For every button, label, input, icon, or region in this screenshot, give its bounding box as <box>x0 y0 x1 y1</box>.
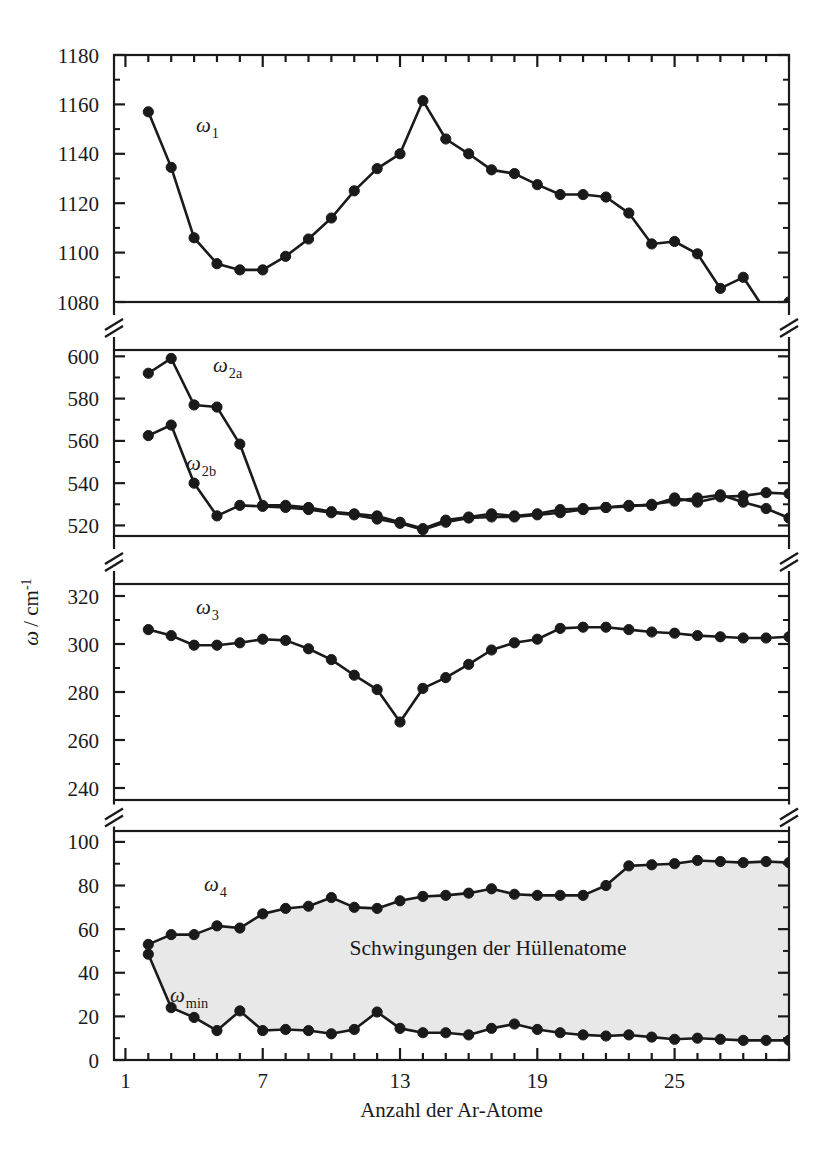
data-point <box>509 168 519 178</box>
data-point <box>395 896 405 906</box>
data-point <box>715 856 725 866</box>
omega-vs-ar-atoms-chart: 1080110011201140116011805205405605806002… <box>0 0 832 1170</box>
data-point <box>349 186 359 196</box>
data-point <box>212 402 222 412</box>
y-tick-label: 540 <box>68 472 100 496</box>
data-point <box>647 627 657 637</box>
data-point <box>601 622 611 632</box>
data-point <box>281 903 291 913</box>
data-point <box>761 488 771 498</box>
data-point <box>143 625 153 635</box>
y-tick-label: 300 <box>68 633 100 657</box>
data-point <box>509 1019 519 1029</box>
data-point <box>372 164 382 174</box>
axis-break-mark <box>780 315 798 337</box>
data-point <box>532 1024 542 1034</box>
y-tick-label: 260 <box>68 729 100 753</box>
y-tick-label: 280 <box>68 681 100 705</box>
data-point <box>166 353 176 363</box>
data-point <box>624 625 634 635</box>
data-point <box>212 511 222 521</box>
data-point <box>326 655 336 665</box>
data-point <box>418 891 428 901</box>
data-point <box>715 1034 725 1044</box>
data-point <box>349 670 359 680</box>
data-point <box>166 162 176 172</box>
data-point <box>281 251 291 261</box>
data-point <box>189 400 199 410</box>
data-point <box>326 213 336 223</box>
data-point <box>235 1006 245 1016</box>
data-point <box>578 622 588 632</box>
data-point <box>281 635 291 645</box>
data-point <box>258 1025 268 1035</box>
data-point <box>372 685 382 695</box>
data-point <box>441 134 451 144</box>
data-point <box>692 855 702 865</box>
data-point <box>715 490 725 500</box>
data-point <box>532 180 542 190</box>
figure-root: 1080110011201140116011805205405605806002… <box>0 0 832 1170</box>
data-point <box>555 508 565 518</box>
data-point <box>647 239 657 249</box>
data-point <box>601 502 611 512</box>
data-point <box>692 493 702 503</box>
y-tick-label: 600 <box>68 345 100 369</box>
data-point <box>441 890 451 900</box>
data-point <box>303 504 313 514</box>
x-tick-label: 7 <box>257 1069 268 1093</box>
data-point <box>349 902 359 912</box>
y-tick-label: 60 <box>78 918 99 942</box>
data-point <box>486 884 496 894</box>
data-point <box>715 632 725 642</box>
data-point <box>235 638 245 648</box>
data-point <box>418 1028 428 1038</box>
data-point <box>464 1030 474 1040</box>
data-point <box>326 1029 336 1039</box>
data-point <box>258 634 268 644</box>
data-point <box>395 518 405 528</box>
data-point <box>395 149 405 159</box>
data-point <box>738 497 748 507</box>
data-point <box>372 514 382 524</box>
data-point <box>212 1025 222 1035</box>
y-tick-label: 320 <box>68 585 100 609</box>
data-point <box>303 1025 313 1035</box>
data-point <box>258 265 268 275</box>
data-point <box>189 640 199 650</box>
y-tick-label: 560 <box>68 429 100 453</box>
data-point <box>372 903 382 913</box>
data-point <box>303 234 313 244</box>
y-tick-label: 1180 <box>58 44 99 68</box>
data-point <box>395 717 405 727</box>
data-point <box>166 631 176 641</box>
data-point <box>761 1035 771 1045</box>
data-point <box>464 513 474 523</box>
data-point <box>418 96 428 106</box>
data-point <box>601 1031 611 1041</box>
data-point <box>486 165 496 175</box>
data-point <box>738 858 748 868</box>
data-point <box>395 1023 405 1033</box>
data-point <box>601 192 611 202</box>
data-point <box>143 107 153 117</box>
data-point <box>464 659 474 669</box>
data-point <box>532 890 542 900</box>
data-point <box>647 499 657 509</box>
data-point <box>281 1024 291 1034</box>
y-tick-label: 1100 <box>58 241 99 265</box>
data-point <box>692 249 702 259</box>
x-tick-label: 25 <box>664 1069 685 1093</box>
data-point <box>143 431 153 441</box>
y-tick-label: 1080 <box>57 291 99 315</box>
axis-break-mark <box>780 549 798 571</box>
data-point <box>258 909 268 919</box>
data-point <box>692 631 702 641</box>
data-point <box>189 930 199 940</box>
axis-break-mark <box>105 315 123 337</box>
data-point <box>418 525 428 535</box>
data-point <box>372 1007 382 1017</box>
x-tick-label: 13 <box>390 1069 411 1093</box>
data-point <box>143 949 153 959</box>
data-point <box>669 859 679 869</box>
